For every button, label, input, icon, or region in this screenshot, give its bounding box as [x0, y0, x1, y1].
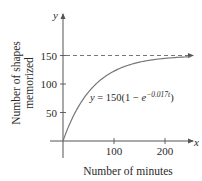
chart: 10020050100150 x y Number of minutes Num…	[0, 0, 202, 181]
y-axis-title-line2: memorized	[23, 57, 35, 109]
x-axis-letter: x	[193, 136, 199, 148]
x-axis-title: Number of minutes	[83, 165, 173, 177]
y-tick-label: 50	[46, 107, 58, 119]
y-axis-letter: y	[52, 9, 58, 21]
equation-label: y = 150(1 − e−0.017t)	[89, 90, 174, 104]
y-axis-title-line1: Number of shapes	[10, 41, 23, 125]
x-tick-label: 100	[106, 145, 123, 157]
y-tick-label: 100	[41, 78, 58, 90]
y-tick-label: 150	[41, 50, 58, 62]
x-tick-label: 200	[157, 145, 174, 157]
